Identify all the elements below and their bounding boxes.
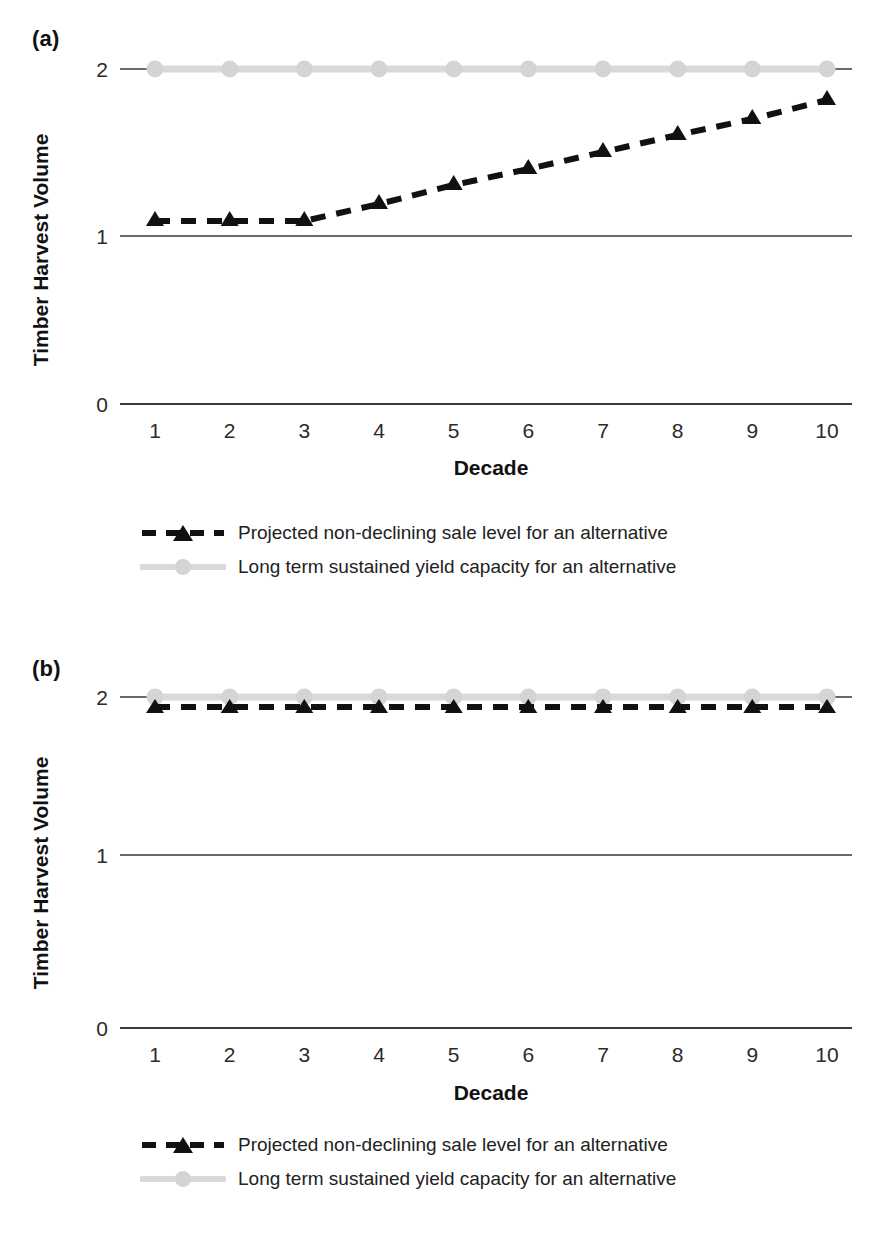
legend-row-capacity: Long term sustained yield capacity for a… xyxy=(140,550,676,584)
projected-line-a xyxy=(155,100,827,221)
projected-marker xyxy=(594,142,612,157)
legend-swatch-capacity-icon xyxy=(140,1168,226,1190)
chart-b-svg: 2 1 0 xyxy=(0,628,874,1138)
legend-b: Projected non-declining sale level for a… xyxy=(140,1128,676,1196)
capacity-marker xyxy=(445,61,462,78)
capacity-marker xyxy=(520,61,537,78)
capacity-marker xyxy=(296,61,313,78)
ytick-label-0: 0 xyxy=(96,393,108,416)
xtick-label: 10 xyxy=(815,1043,838,1066)
xtick-label: 5 xyxy=(448,1043,460,1066)
legend-label-capacity: Long term sustained yield capacity for a… xyxy=(238,1168,676,1190)
xtick-label: 1 xyxy=(149,1043,161,1066)
series-capacity-a xyxy=(147,61,836,78)
xtick-label: 1 xyxy=(149,419,161,442)
gridlines-b xyxy=(120,697,852,1028)
chart-a: 2 1 0 xyxy=(0,0,874,500)
projected-marker xyxy=(743,109,761,124)
y-axis-title: Timber Harvest Volume xyxy=(29,134,52,367)
legend-swatch-capacity-icon xyxy=(140,556,226,578)
xtick-label: 9 xyxy=(746,1043,758,1066)
legend-row-projected: Projected non-declining sale level for a… xyxy=(140,1128,676,1162)
capacity-marker xyxy=(221,61,238,78)
xtick-label: 10 xyxy=(815,419,838,442)
projected-marker xyxy=(519,159,537,174)
ytick-label-1: 1 xyxy=(96,844,108,867)
ytick-label-0: 0 xyxy=(96,1017,108,1040)
projected-marker xyxy=(445,175,463,190)
legend-label-projected: Projected non-declining sale level for a… xyxy=(238,1134,668,1156)
xtick-label: 4 xyxy=(373,419,385,442)
xtick-label: 8 xyxy=(672,1043,684,1066)
legend-label-projected: Projected non-declining sale level for a… xyxy=(238,522,668,544)
ytick-label-2: 2 xyxy=(96,58,108,81)
xtick-label: 3 xyxy=(298,1043,310,1066)
xtick-label: 3 xyxy=(298,419,310,442)
xtick-label: 9 xyxy=(746,419,758,442)
ytick-label-2: 2 xyxy=(96,686,108,709)
ytick-label-1: 1 xyxy=(96,225,108,248)
legend-row-capacity: Long term sustained yield capacity for a… xyxy=(140,1162,676,1196)
series-capacity-b xyxy=(147,689,836,706)
xtick-label: 5 xyxy=(448,419,460,442)
xtick-label: 7 xyxy=(597,1043,609,1066)
panel-a: (a) 2 1 0 xyxy=(0,0,874,615)
legend-a: Projected non-declining sale level for a… xyxy=(140,516,676,584)
legend-swatch-projected-icon xyxy=(140,522,226,544)
capacity-marker xyxy=(595,61,612,78)
series-projected-b xyxy=(146,699,836,713)
xtick-label: 6 xyxy=(522,1043,534,1066)
capacity-marker xyxy=(669,61,686,78)
xtick-label: 8 xyxy=(672,419,684,442)
legend-swatch-projected-icon xyxy=(140,1134,226,1156)
chart-a-svg: 2 1 0 xyxy=(0,0,874,500)
projected-marker xyxy=(669,125,687,140)
projected-marker xyxy=(370,194,388,209)
projected-markers-a xyxy=(146,90,836,226)
xtick-label: 7 xyxy=(597,419,609,442)
series-projected-a xyxy=(146,90,836,226)
capacity-marker xyxy=(744,61,761,78)
x-axis-title: Decade xyxy=(454,1081,529,1104)
xtick-label: 4 xyxy=(373,1043,385,1066)
capacity-marker xyxy=(147,61,164,78)
legend-row-projected: Projected non-declining sale level for a… xyxy=(140,516,676,550)
x-axis-title: Decade xyxy=(454,456,529,479)
y-axis-title: Timber Harvest Volume xyxy=(29,757,52,990)
capacity-marker xyxy=(819,61,836,78)
panel-b: (b) 2 1 0 xyxy=(0,628,874,1254)
projected-marker xyxy=(818,90,836,105)
capacity-marker xyxy=(371,61,388,78)
xtick-label: 2 xyxy=(224,1043,236,1066)
xtick-label: 2 xyxy=(224,419,236,442)
xtick-label: 6 xyxy=(522,419,534,442)
legend-label-capacity: Long term sustained yield capacity for a… xyxy=(238,556,676,578)
chart-b: 2 1 0 xyxy=(0,628,874,1138)
figure-page: (a) 2 1 0 xyxy=(0,0,874,1254)
